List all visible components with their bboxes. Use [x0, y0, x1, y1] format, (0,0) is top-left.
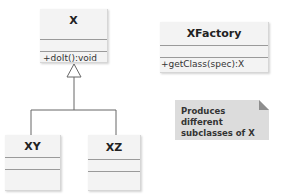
class-xfactory-operation: +getClass(spec):X [161, 59, 244, 69]
class-xy-separator-2 [5, 169, 60, 170]
class-x-separator-2 [40, 51, 107, 52]
class-xz-separator-1 [88, 159, 140, 160]
class-x[interactable]: X +doIt():void [40, 9, 108, 63]
class-xfactory-name: XFactory [160, 27, 268, 40]
class-xz-name: XZ [88, 141, 140, 154]
class-xy[interactable]: XY [5, 135, 61, 191]
class-x-operation: +doIt():void [43, 53, 97, 63]
class-xy-separator-1 [5, 157, 60, 158]
class-xfactory[interactable]: XFactory +getClass(spec):X [160, 22, 269, 73]
class-xfactory-separator-2 [160, 57, 268, 58]
note-text-line-1: Produces different [181, 106, 269, 128]
inheritance-branch-line [31, 110, 116, 135]
class-xy-name: XY [5, 140, 60, 153]
class-xfactory-separator-1 [160, 45, 268, 46]
note-text: Produces different subclasses of X [181, 106, 269, 139]
class-xz-separator-2 [88, 171, 140, 172]
class-x-separator-1 [40, 39, 107, 40]
class-x-name: X [40, 14, 107, 27]
note-text-line-2: subclasses of X [181, 128, 269, 139]
generalization-arrowhead-icon [67, 64, 81, 77]
class-xz[interactable]: XZ [88, 135, 141, 191]
note: Produces different subclasses of X [175, 100, 269, 140]
